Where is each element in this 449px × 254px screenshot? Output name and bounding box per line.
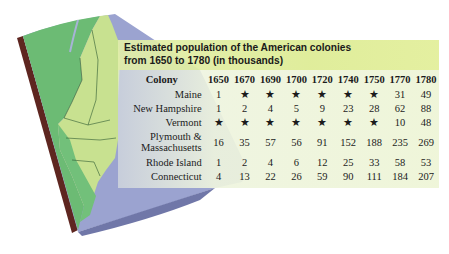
value-cell: 1 xyxy=(206,155,232,169)
value-cell: ★ xyxy=(309,115,335,129)
value-cell: 12 xyxy=(309,155,335,169)
colony-name: Connecticut xyxy=(118,169,206,183)
value-cell: 16 xyxy=(206,129,232,155)
colony-name-line-1: Plymouth & xyxy=(150,131,202,142)
column-header: 1770 xyxy=(387,71,413,87)
value-cell: 88 xyxy=(413,101,439,115)
table-row: New Hampshire 1 2 4 5 9 23 28 62 88 xyxy=(118,101,439,115)
value-cell: 184 xyxy=(387,169,413,183)
value-cell: 33 xyxy=(361,155,387,169)
value-cell: ★ xyxy=(309,87,335,101)
value-cell: 2 xyxy=(232,101,258,115)
column-header: Colony xyxy=(118,71,206,87)
column-header: 1780 xyxy=(413,71,439,87)
value-cell: 53 xyxy=(413,155,439,169)
title-bar: Estimated population of the American col… xyxy=(118,40,439,70)
value-cell: 152 xyxy=(335,129,361,155)
value-cell: 91 xyxy=(309,129,335,155)
value-cell: 35 xyxy=(232,129,258,155)
value-cell: 23 xyxy=(335,101,361,115)
table-row: Rhode Island 1 2 4 6 12 25 33 58 53 xyxy=(118,155,439,169)
column-header: 1690 xyxy=(258,71,284,87)
colony-name: Plymouth &Massachusetts xyxy=(118,129,206,155)
table-row: Connecticut 4 13 22 26 59 90 111 184 207 xyxy=(118,169,439,183)
value-cell: 90 xyxy=(335,169,361,183)
colony-name-line-2: Massachusetts xyxy=(141,142,202,153)
column-header: 1750 xyxy=(361,71,387,87)
colony-name: New Hampshire xyxy=(118,101,206,115)
value-cell: 4 xyxy=(258,101,284,115)
table-row: Maine 1 ★ ★ ★ ★ ★ ★ 31 49 xyxy=(118,87,439,101)
value-cell: 13 xyxy=(232,169,258,183)
value-cell: 4 xyxy=(206,169,232,183)
colony-name: Vermont xyxy=(118,115,206,129)
value-cell: ★ xyxy=(258,87,284,101)
value-cell: 22 xyxy=(258,169,284,183)
value-cell: 111 xyxy=(361,169,387,183)
colony-name: Rhode Island xyxy=(118,155,206,169)
value-cell: 9 xyxy=(309,101,335,115)
value-cell: ★ xyxy=(283,87,309,101)
column-header: 1700 xyxy=(283,71,309,87)
value-cell: 57 xyxy=(258,129,284,155)
value-cell: 1 xyxy=(206,101,232,115)
population-table-panel: Estimated population of the American col… xyxy=(118,40,439,188)
value-cell: 6 xyxy=(283,155,309,169)
title-line-2: from 1650 to 1780 (in thousands) xyxy=(124,55,351,68)
value-cell: ★ xyxy=(335,115,361,129)
value-cell: 4 xyxy=(258,155,284,169)
value-cell: ★ xyxy=(232,87,258,101)
value-cell: 59 xyxy=(309,169,335,183)
column-header: 1740 xyxy=(335,71,361,87)
value-cell: 28 xyxy=(361,101,387,115)
value-cell: 235 xyxy=(387,129,413,155)
value-cell: 25 xyxy=(335,155,361,169)
value-cell: 49 xyxy=(413,87,439,101)
column-header: 1650 xyxy=(206,71,232,87)
value-cell: ★ xyxy=(206,115,232,129)
value-cell: ★ xyxy=(258,115,284,129)
value-cell: 2 xyxy=(232,155,258,169)
table-row: Vermont ★ ★ ★ ★ ★ ★ ★ 10 48 xyxy=(118,115,439,129)
value-cell: ★ xyxy=(361,87,387,101)
table-title: Estimated population of the American col… xyxy=(124,42,351,67)
value-cell: 1 xyxy=(206,87,232,101)
value-cell: 269 xyxy=(413,129,439,155)
table-row: Plymouth &Massachusetts 16 35 57 56 91 1… xyxy=(118,129,439,155)
value-cell: ★ xyxy=(335,87,361,101)
column-header: 1720 xyxy=(309,71,335,87)
value-cell: 207 xyxy=(413,169,439,183)
value-cell: 5 xyxy=(283,101,309,115)
title-line-1: Estimated population of the American col… xyxy=(124,42,351,55)
value-cell: ★ xyxy=(232,115,258,129)
column-header: 1670 xyxy=(232,71,258,87)
value-cell: 26 xyxy=(283,169,309,183)
population-table: Colony 1650 1670 1690 1700 1720 1740 175… xyxy=(118,71,439,183)
colony-name: Maine xyxy=(118,87,206,101)
value-cell: ★ xyxy=(283,115,309,129)
value-cell: 188 xyxy=(361,129,387,155)
value-cell: 31 xyxy=(387,87,413,101)
value-cell: 48 xyxy=(413,115,439,129)
value-cell: ★ xyxy=(361,115,387,129)
header-row: Colony 1650 1670 1690 1700 1720 1740 175… xyxy=(118,71,439,87)
value-cell: 58 xyxy=(387,155,413,169)
value-cell: 56 xyxy=(283,129,309,155)
value-cell: 10 xyxy=(387,115,413,129)
value-cell: 62 xyxy=(387,101,413,115)
